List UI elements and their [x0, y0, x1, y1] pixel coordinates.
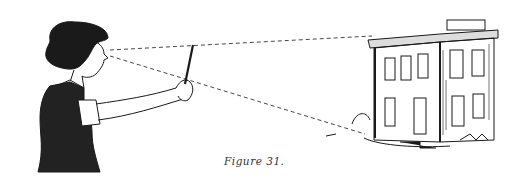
- woman-figure: [38, 22, 193, 172]
- pencil: [185, 45, 193, 84]
- figure-caption: Figure 31.: [224, 155, 308, 167]
- sight-lines: [110, 36, 372, 134]
- building: [326, 20, 498, 148]
